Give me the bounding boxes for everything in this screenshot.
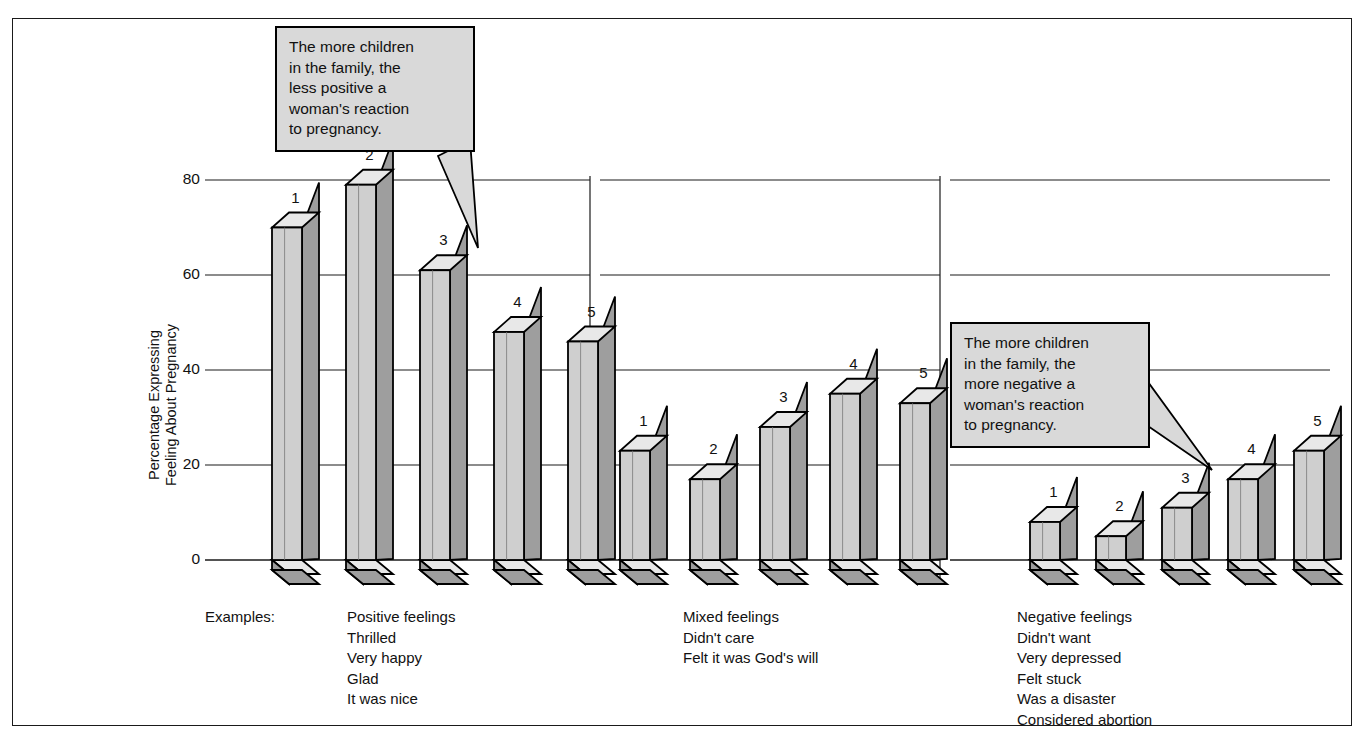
bar-3d — [830, 349, 877, 584]
bar-front-face — [760, 427, 790, 560]
bar-side-face — [450, 225, 467, 560]
callout-more-negative: The more children in the family, the mor… — [950, 322, 1150, 448]
group-caption-negative: Negative feelings Didn't want Very depre… — [1017, 607, 1152, 730]
figure-canvas: Percentage Expressing Feeling About Preg… — [0, 0, 1370, 743]
bar-front-face — [1294, 451, 1324, 560]
bar-3d — [494, 287, 541, 584]
bar-front-face — [1096, 536, 1126, 560]
bar-label: 1 — [281, 189, 311, 206]
bar-front-face — [1030, 522, 1060, 560]
bar-label: 5 — [577, 303, 607, 320]
bar-side-face — [302, 183, 319, 561]
group-caption-positive: Positive feelings Thrilled Very happy Gl… — [347, 607, 455, 710]
bar-front-face — [690, 479, 720, 560]
bar-3d — [620, 406, 667, 584]
bar-3d — [420, 225, 467, 584]
bar-3d — [760, 382, 807, 584]
bar-label: 5 — [1303, 412, 1333, 429]
bar-side-face — [376, 140, 393, 560]
bar-side-face — [790, 382, 807, 560]
bar-label: 4 — [839, 355, 869, 372]
bar-front-face — [494, 332, 524, 560]
y-tick-label: 40 — [160, 360, 200, 378]
y-tick-label: 20 — [160, 455, 200, 473]
bar-side-face — [1324, 406, 1341, 560]
bar-3d — [346, 140, 393, 584]
bar-label: 5 — [909, 364, 939, 381]
bar-3d — [1294, 406, 1341, 584]
group-caption-mixed: Mixed feelings Didn't care Felt it was G… — [683, 607, 818, 669]
bar-side-face — [650, 406, 667, 560]
y-tick-label: 60 — [160, 265, 200, 283]
examples-label: Examples: — [205, 607, 275, 628]
bar-label: 1 — [629, 412, 659, 429]
bar-label: 2 — [699, 440, 729, 457]
bar-3d — [900, 358, 947, 584]
bar-front-face — [272, 228, 302, 561]
bar-label: 1 — [1039, 483, 1069, 500]
bar-front-face — [900, 403, 930, 560]
bar-label: 2 — [1105, 497, 1135, 514]
y-tick-label: 0 — [160, 550, 200, 568]
bar-label: 4 — [1237, 440, 1267, 457]
bar-label: 4 — [503, 293, 533, 310]
bar-front-face — [1162, 508, 1192, 560]
bar-label: 3 — [429, 231, 459, 248]
bar-label: 3 — [1171, 469, 1201, 486]
bar-3d — [272, 183, 319, 585]
bar-front-face — [830, 394, 860, 560]
bar-front-face — [346, 185, 376, 560]
bar-front-face — [620, 451, 650, 560]
bar-label: 3 — [769, 388, 799, 405]
bar-front-face — [420, 270, 450, 560]
callout-less-positive: The more children in the family, the les… — [275, 26, 475, 152]
bar-front-face — [1228, 479, 1258, 560]
bar-3d — [568, 297, 615, 585]
bar-front-face — [568, 342, 598, 561]
y-tick-label: 80 — [160, 170, 200, 188]
